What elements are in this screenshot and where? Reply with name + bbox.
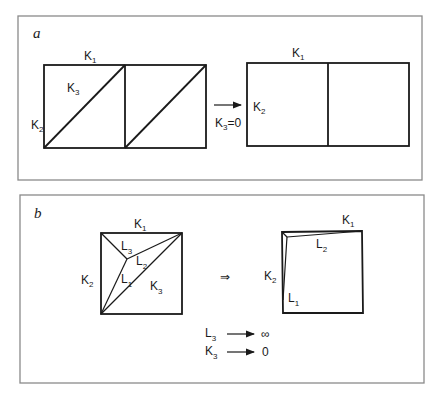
label-l1: L1 [121, 272, 133, 289]
panel-a-frame [18, 16, 422, 180]
label-k1: K1 [134, 217, 147, 233]
label-k1-after: K1 [292, 46, 305, 62]
label-k1-after: K1 [342, 213, 355, 229]
limit-var: K3 [205, 344, 218, 361]
label-l2: L2 [136, 254, 148, 271]
panel-a-letter: a [33, 25, 41, 41]
limit-var: L3 [205, 326, 217, 343]
edge-l1 [101, 259, 127, 314]
diagonal-k3-right [125, 65, 206, 148]
figure-canvas: a K1 K3 K2 K3=0 K1 K2 b [0, 0, 445, 393]
label-k2-after: K2 [264, 269, 277, 285]
panel-b-before-element [101, 233, 182, 314]
label-l2-after: L2 [316, 237, 328, 254]
label-k3: K3 [67, 81, 80, 97]
panel-a-before-mesh [44, 65, 206, 148]
label-k1: K1 [84, 49, 97, 65]
panel-a: a K1 K3 K2 K3=0 K1 K2 [18, 16, 422, 180]
label-l3: L3 [121, 239, 133, 256]
label-k3: K3 [150, 279, 163, 296]
limit-value: ∞ [261, 327, 270, 341]
label-k2: K2 [31, 118, 44, 134]
panel-b-letter: b [34, 205, 42, 221]
label-l1-after: L1 [288, 291, 300, 308]
limit-value: 0 [262, 345, 269, 359]
edge-l1 [283, 237, 287, 300]
diagonal-k3-left [44, 65, 125, 148]
label-k2-after: K2 [253, 100, 266, 116]
limit-l3-infinity: L3 ∞ [205, 326, 270, 343]
label-k2: K2 [81, 273, 94, 289]
condition-k3-zero: K3=0 [215, 116, 241, 132]
panel-a-after-mesh [247, 63, 409, 146]
limit-k3-zero: K3 0 [205, 344, 269, 361]
implies-arrow: ⇒ [220, 270, 230, 284]
panel-b: b K1 K2 L3 L2 L1 K3 ⇒ K1 K2 L2 L1 L3 [20, 195, 424, 383]
